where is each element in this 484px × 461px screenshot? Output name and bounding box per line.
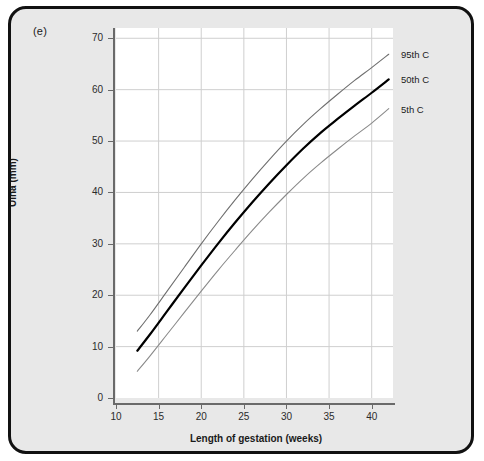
y-tick-mark (108, 295, 114, 296)
y-tick-label: 20 (77, 289, 103, 300)
y-tick-label: 50 (77, 135, 103, 146)
x-tick-mark (116, 403, 117, 409)
panel-label: (e) (33, 25, 47, 37)
x-tick-label: 10 (101, 411, 131, 422)
x-axis-line (113, 403, 395, 405)
y-tick-label: 70 (77, 32, 103, 43)
y-tick-label: 10 (77, 341, 103, 352)
chart-canvas (116, 28, 393, 398)
y-tick-mark (108, 90, 114, 91)
x-tick-label: 25 (229, 411, 259, 422)
x-tick-label: 35 (314, 411, 344, 422)
legend-label-5th-c: 5th C (401, 104, 424, 115)
y-tick-label: 0 (77, 392, 103, 403)
legend-label-95th-c: 95th C (401, 49, 429, 60)
y-tick-label: 40 (77, 186, 103, 197)
x-tick-mark (329, 403, 330, 409)
y-tick-label: 60 (77, 84, 103, 95)
x-axis-label: Length of gestation (weeks) (116, 433, 396, 444)
x-tick-mark (201, 403, 202, 409)
plot-area (116, 28, 393, 398)
x-tick-mark (244, 403, 245, 409)
x-tick-label: 15 (144, 411, 174, 422)
y-tick-mark (108, 141, 114, 142)
x-tick-label: 30 (271, 411, 301, 422)
x-tick-label: 40 (357, 411, 387, 422)
x-tick-label: 20 (186, 411, 216, 422)
x-tick-mark (286, 403, 287, 409)
series-line-5th-c (137, 109, 388, 372)
y-tick-label: 30 (77, 238, 103, 249)
y-tick-mark (108, 347, 114, 348)
y-tick-mark (108, 192, 114, 193)
x-tick-mark (372, 403, 373, 409)
legend-label-50th-c: 50th C (401, 74, 429, 85)
series-line-50th-c (137, 79, 388, 350)
x-tick-mark (159, 403, 160, 409)
y-tick-mark (108, 244, 114, 245)
y-axis-label: Ulna (mm) (8, 158, 18, 207)
y-tick-mark (108, 398, 114, 399)
y-tick-mark (108, 38, 114, 39)
figure-panel: (e) 010203040506070 10152025303540 Ulna … (8, 6, 474, 454)
